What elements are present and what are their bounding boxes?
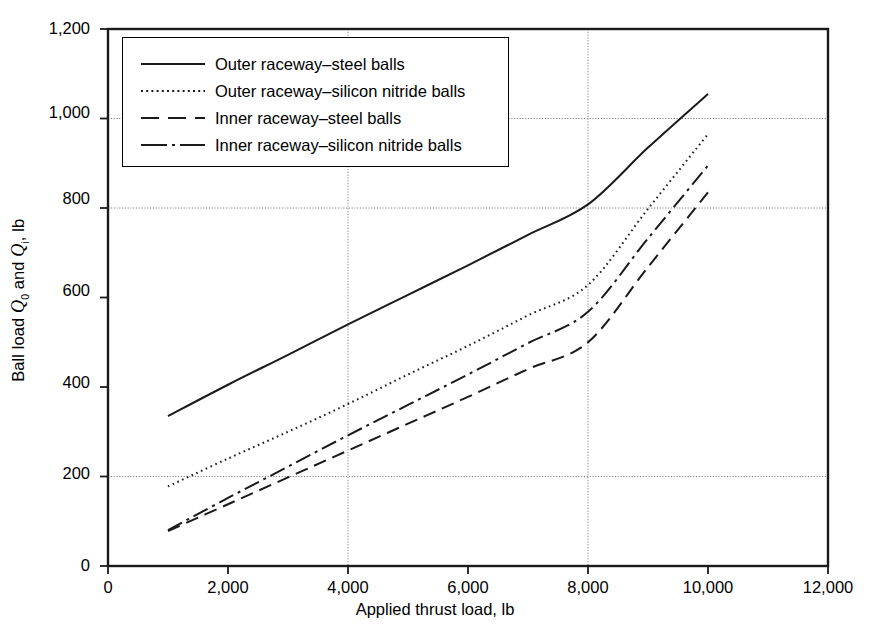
solid-line-key — [137, 52, 209, 76]
dotted-line-key — [137, 79, 209, 103]
series-line-1 — [168, 134, 708, 486]
legend-item-0: Outer raceway–steel balls — [137, 52, 508, 76]
series-line-3 — [168, 165, 708, 530]
legend-item-label-1: Outer raceway–silicon nitride balls — [209, 82, 465, 101]
dashdot-line-key — [137, 133, 209, 157]
legend-item-label-2: Inner raceway–steel balls — [209, 109, 401, 128]
legend-item-1: Outer raceway–silicon nitride balls — [137, 79, 508, 103]
series-line-2 — [168, 192, 708, 531]
legend-item-3: Inner raceway–silicon nitride balls — [137, 133, 508, 157]
legend-item-2: Inner raceway–steel balls — [137, 106, 508, 130]
legend-item-label-0: Outer raceway–steel balls — [209, 55, 405, 74]
chart-legend: Outer raceway–steel ballsOuter raceway–s… — [122, 37, 509, 167]
legend-item-label-3: Inner raceway–silicon nitride balls — [209, 136, 462, 155]
dashed-line-key — [137, 106, 209, 130]
chart-figure: Ball load Q0 and Qi, lb 1,200 1,000 800 … — [0, 0, 870, 641]
